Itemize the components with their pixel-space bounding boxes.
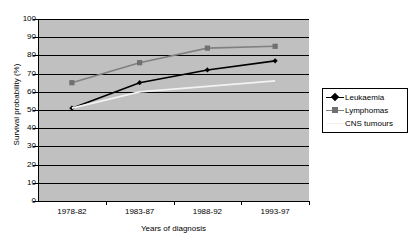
- legend-key-icon: [325, 92, 345, 103]
- x-tickmark: [106, 201, 107, 205]
- legend-item-cns-tumours[interactable]: CNS tumours: [325, 117, 405, 130]
- data-point-marker: [137, 80, 142, 85]
- series-cns-tumours: [72, 81, 275, 108]
- data-point-marker: [69, 80, 74, 85]
- data-point-marker: [137, 60, 142, 65]
- legend-item-label: Leukaemia: [345, 93, 384, 102]
- y-tickmark: [33, 201, 38, 202]
- legend-item-label: Lymphomas: [345, 106, 388, 115]
- x-tick-label: 1983-87: [108, 207, 172, 216]
- data-point-marker: [205, 67, 210, 72]
- legend-key-marker-square-icon: [332, 107, 338, 113]
- legend-key-line: [326, 123, 344, 124]
- x-tick-label: 1993-97: [243, 207, 307, 216]
- legend-item-lymphomas[interactable]: Lymphomas: [325, 104, 405, 117]
- legend-key-icon: [325, 105, 345, 116]
- legend-key-icon: [325, 118, 345, 129]
- legend-item-leukaemia[interactable]: Leukaemia: [325, 91, 405, 104]
- x-tickmark: [309, 201, 310, 205]
- x-tickmark: [241, 201, 242, 205]
- data-point-marker: [273, 44, 278, 49]
- series-leukaemia: [69, 58, 277, 111]
- x-tickmark: [174, 201, 175, 205]
- series-line: [72, 81, 275, 108]
- data-point-marker: [205, 46, 210, 51]
- x-tick-label: 1988-92: [175, 207, 239, 216]
- data-series-layer: [38, 19, 309, 201]
- chart-legend: LeukaemiaLymphomasCNS tumours: [322, 88, 408, 133]
- survival-probability-line-chart: Survival probability (%) 010203040506070…: [0, 0, 413, 242]
- x-tick-label: 1978-82: [40, 207, 104, 216]
- legend-key-marker-diamond-icon: [331, 93, 339, 101]
- legend-item-label: CNS tumours: [345, 119, 393, 128]
- data-point-marker: [273, 58, 278, 63]
- x-axis-title: Years of diagnosis: [38, 224, 309, 233]
